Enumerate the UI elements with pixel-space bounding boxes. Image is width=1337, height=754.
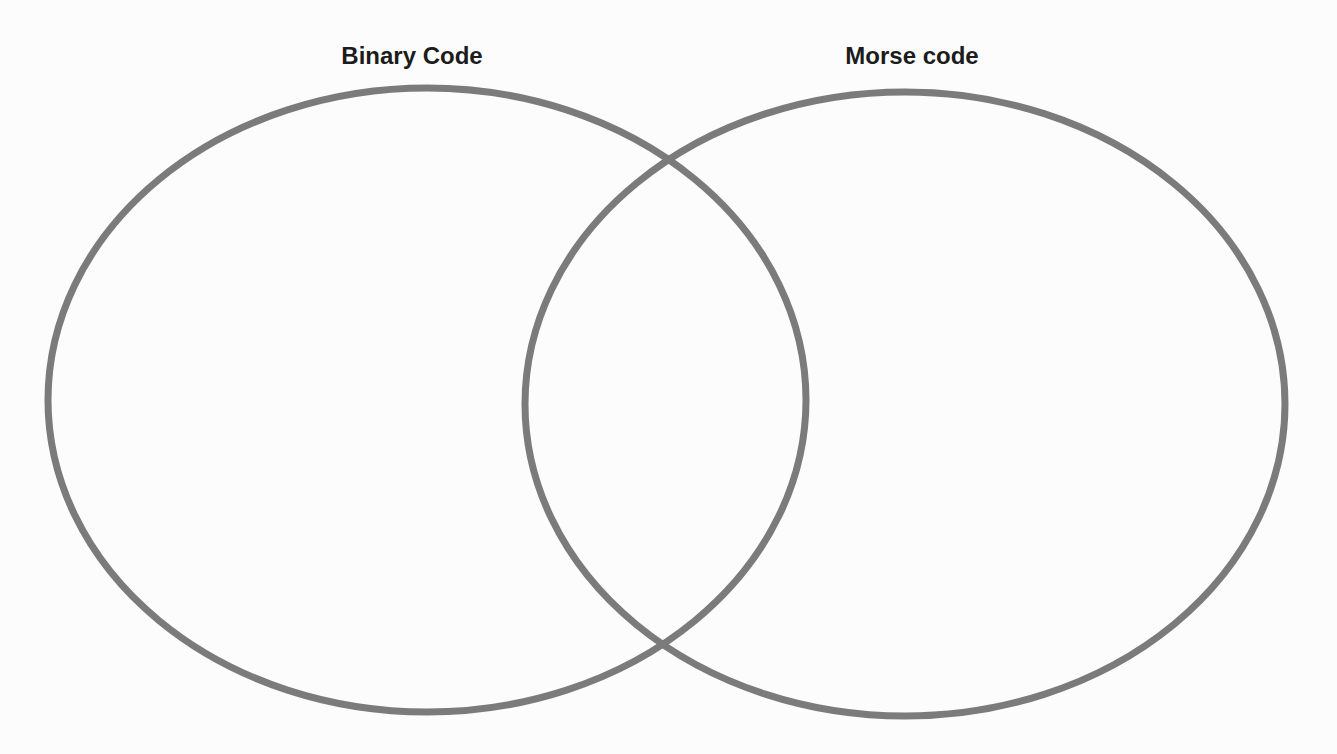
binary-code-circle bbox=[48, 88, 806, 712]
venn-svg bbox=[0, 0, 1337, 754]
morse-code-label: Morse code bbox=[845, 42, 978, 70]
morse-code-circle bbox=[525, 92, 1285, 716]
binary-code-label: Binary Code bbox=[341, 42, 482, 70]
venn-diagram: Binary Code Morse code bbox=[0, 0, 1337, 754]
